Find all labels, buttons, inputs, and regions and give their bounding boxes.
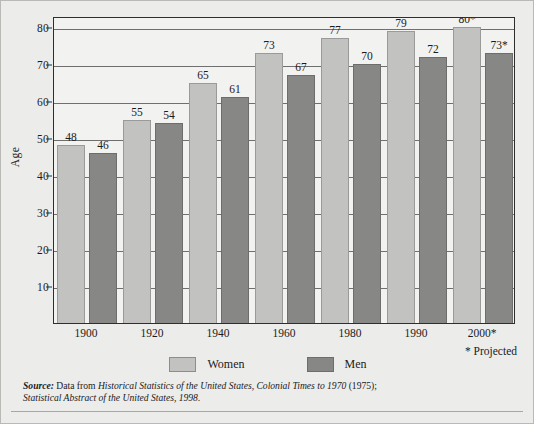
gridline — [54, 29, 514, 30]
source-label: Source: — [23, 380, 54, 391]
y-tick-mark — [46, 287, 52, 288]
bar-women-1990[interactable] — [387, 31, 415, 323]
bar-women-1940[interactable] — [189, 83, 217, 323]
bar-men-1990[interactable] — [419, 57, 447, 323]
plot-frame: 48465554656173677770797280*73* — [53, 17, 515, 324]
bar-value-label: 79 — [395, 18, 407, 29]
bar-men-2000[interactable] — [485, 53, 513, 323]
bar-women-2000[interactable] — [453, 27, 481, 323]
bar-value-label: 48 — [65, 131, 77, 143]
y-tick-label: 70 — [7, 59, 49, 71]
x-tick-label: 1960 — [273, 327, 296, 339]
legend-label: Men — [345, 357, 367, 372]
bar-men-1960[interactable] — [287, 75, 315, 323]
y-tick-mark — [46, 139, 52, 140]
bar-men-1980[interactable] — [353, 64, 381, 323]
y-tick-mark — [46, 65, 52, 66]
y-tick-mark — [46, 176, 52, 177]
bar-men-1900[interactable] — [89, 153, 117, 323]
source-title-2: Statistical Abstract of the United State… — [23, 392, 200, 403]
x-tick-label: 2000* — [468, 327, 497, 339]
y-tick-label: 30 — [7, 207, 49, 219]
chart-figure: 1020304050607080 Age 4846555465617367777… — [0, 0, 534, 424]
bar-value-label: 80* — [458, 18, 475, 25]
chart-legend: WomenMen — [1, 353, 534, 375]
bar-value-label: 72 — [427, 43, 439, 55]
bar-value-label: 65 — [197, 69, 209, 81]
bar-value-label: 61 — [229, 83, 241, 95]
x-tick-label: 1920 — [141, 327, 164, 339]
source-title-1: Historical Statistics of the United Stat… — [98, 380, 346, 391]
legend-item-men[interactable]: Men — [307, 357, 367, 372]
x-tick-label: 1980 — [339, 327, 362, 339]
x-tick-label: 1940 — [207, 327, 230, 339]
x-tick-label: 1900 — [75, 327, 98, 339]
bar-women-1980[interactable] — [321, 38, 349, 323]
y-tick-label: 60 — [7, 96, 49, 108]
source-year-1: (1975); — [346, 380, 377, 391]
bar-women-1960[interactable] — [255, 53, 283, 323]
bar-value-label: 54 — [163, 109, 175, 121]
legend-swatch-icon — [169, 357, 196, 372]
source-intro: Data from — [54, 380, 98, 391]
y-tick-mark — [46, 102, 52, 103]
bar-value-label: 46 — [97, 139, 109, 151]
bar-men-1920[interactable] — [155, 123, 183, 323]
legend-item-women[interactable]: Women — [169, 357, 244, 372]
x-tick-label: 1990 — [405, 327, 428, 339]
y-tick-mark — [46, 213, 52, 214]
bar-value-label: 73* — [490, 39, 507, 51]
y-axis-title: Age — [9, 127, 21, 187]
y-tick-label: 80 — [7, 22, 49, 34]
bar-value-label: 55 — [131, 106, 143, 118]
bar-value-label: 70 — [361, 50, 373, 62]
x-axis: 1900192019401960198019902000* — [53, 327, 515, 345]
bar-value-label: 73 — [263, 39, 275, 51]
bar-men-1940[interactable] — [221, 97, 249, 323]
bar-women-1920[interactable] — [123, 120, 151, 323]
legend-label: Women — [207, 357, 244, 372]
y-tick-mark — [46, 28, 52, 29]
bar-value-label: 77 — [329, 24, 341, 36]
source-citation: Source: Data from Historical Statistics … — [23, 380, 503, 404]
plot-area: 48465554656173677770797280*73* — [54, 18, 514, 323]
bar-value-label: 67 — [295, 61, 307, 73]
y-tick-label: 10 — [7, 281, 49, 293]
legend-swatch-icon — [307, 357, 334, 372]
bottom-divider — [11, 411, 523, 412]
bar-women-1900[interactable] — [57, 145, 85, 323]
y-tick-label: 20 — [7, 244, 49, 256]
y-tick-mark — [46, 250, 52, 251]
